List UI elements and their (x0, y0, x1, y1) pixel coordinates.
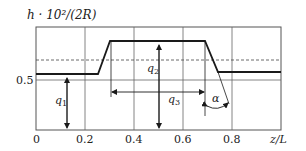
x-tick-0.4: 0.4 (125, 133, 143, 146)
x-axis-label: z/L (269, 133, 287, 146)
y-tick-0.5: 0.5 (16, 74, 34, 87)
vertical-gridlines (85, 27, 232, 130)
diagram-canvas: h · 10²/(2R) 0.5 0 0.2 0.4 0.6 0.8 z/L q… (0, 0, 306, 151)
x-tick-0.6: 0.6 (174, 133, 192, 146)
alpha-extension-line (218, 72, 229, 104)
y-axis-label: h · 10²/(2R) (27, 8, 97, 22)
plot-frame (36, 27, 281, 130)
x-tick-0: 0 (33, 133, 40, 146)
x-tick-0.8: 0.8 (223, 133, 241, 146)
alpha-label: α (212, 92, 220, 105)
q2-label: q2 (147, 62, 159, 76)
q3-label: q3 (168, 93, 180, 107)
x-tick-0.2: 0.2 (76, 133, 94, 146)
q1-label: q1 (55, 94, 67, 108)
